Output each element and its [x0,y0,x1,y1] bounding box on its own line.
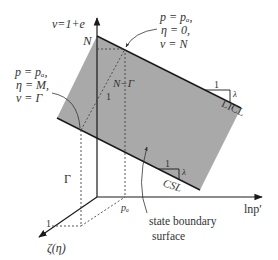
csl-rise-label: λ [181,167,186,177]
diagram-canvas: ν=1+e N N−Γ 1 p = pₐ, η = 0, ν = N p = p… [0,0,278,260]
leader-top-right [126,29,157,47]
csl-run-label: 1 [165,158,170,169]
annotation-left-3: ν = Γ [16,91,43,105]
surface-label-2: surface [152,230,185,242]
depth-one-label: 1 [46,218,51,229]
annotation-top-right-1: p = pₐ, [159,10,193,24]
dashed-depth-diagonal [81,197,125,226]
surface-label-1: state boundary [149,215,217,228]
pa-label: pₐ [120,202,129,213]
annotation-left-1: p = pₐ, [14,65,48,79]
annotation-left-2: η = M, [16,78,49,92]
licl-rise-label: λ [232,89,237,99]
annotation-top-right-2: η = 0, [161,23,190,37]
gamma-label: Γ [64,172,71,186]
slope-one-label: 1 [106,91,111,102]
zeta-axis-label: ζ(η) [47,241,66,255]
n-minus-gamma-label: N−Γ [112,77,135,89]
lnp-axis-label: lnp′ [244,202,262,216]
v-axis-label: ν=1+e [52,17,86,31]
licl-run-label: 1 [214,79,219,90]
zeta-axis [39,197,97,237]
state-boundary-surface [57,36,241,190]
annotation-top-right-3: ν = N [160,37,188,51]
n-label: N [82,33,93,48]
